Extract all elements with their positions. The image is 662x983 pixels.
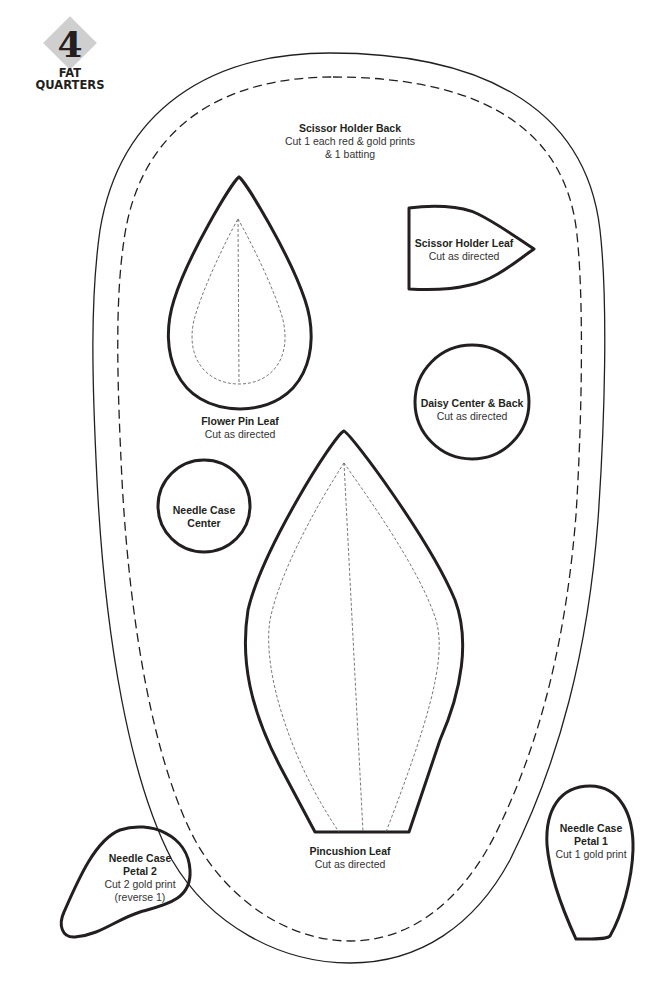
badge-line-2: QUARTERS: [22, 79, 118, 91]
badge-number: 4: [22, 24, 118, 64]
needle-case-petal-1-instruction: Cut 1 gold print: [538, 848, 644, 861]
scissor-holder-back-instruction-2: & 1 batting: [240, 148, 460, 161]
needle-case-petal-2-label: Needle Case Petal 2 Cut 2 gold print (re…: [90, 852, 190, 904]
flower-pin-leaf-outline: [168, 177, 311, 409]
scissor-holder-leaf-instruction: Cut as directed: [404, 250, 524, 263]
scissor-holder-leaf-label: Scissor Holder Leaf Cut as directed: [404, 237, 524, 263]
needle-case-petal-1-label: Needle Case Petal 1 Cut 1 gold print: [538, 822, 644, 861]
fat-quarters-badge: 4 FAT QUARTERS: [22, 22, 118, 102]
daisy-center-back-label: Daisy Center & Back Cut as directed: [408, 397, 536, 423]
daisy-center-back-instruction: Cut as directed: [408, 410, 536, 423]
scissor-holder-back-title: Scissor Holder Back: [240, 122, 460, 135]
needle-case-petal-1-title-1: Needle Case: [538, 822, 644, 835]
scissor-holder-back-instruction-1: Cut 1 each red & gold prints: [240, 135, 460, 148]
flower-pin-leaf-seam: [192, 219, 285, 384]
needle-case-petal-2-title-2: Petal 2: [90, 865, 190, 878]
needle-case-petal-2-title-1: Needle Case: [90, 852, 190, 865]
flower-pin-leaf-title: Flower Pin Leaf: [170, 415, 310, 428]
flower-pin-leaf-instruction: Cut as directed: [170, 428, 310, 441]
needle-case-petal-2-instruction-2: (reverse 1): [90, 891, 190, 904]
scissor-holder-back-label: Scissor Holder Back Cut 1 each red & gol…: [240, 122, 460, 161]
pincushion-leaf-label: Pincushion Leaf Cut as directed: [290, 845, 410, 871]
pincushion-leaf-instruction: Cut as directed: [290, 858, 410, 871]
needle-case-petal-1-outline: [547, 786, 633, 939]
pincushion-leaf-outline: [245, 431, 462, 832]
needle-case-petal-1-title-2: Petal 1: [538, 835, 644, 848]
scissor-holder-leaf-title: Scissor Holder Leaf: [404, 237, 524, 250]
needle-case-center-title-1: Needle Case: [154, 504, 254, 517]
pincushion-leaf-title: Pincushion Leaf: [290, 845, 410, 858]
pincushion-leaf-seam: [269, 463, 440, 832]
daisy-center-back-title: Daisy Center & Back: [408, 397, 536, 410]
needle-case-center-title-2: Center: [154, 517, 254, 530]
needle-case-petal-2-instruction-1: Cut 2 gold print: [90, 878, 190, 891]
needle-case-center-label: Needle Case Center: [154, 504, 254, 530]
flower-pin-leaf-label: Flower Pin Leaf Cut as directed: [170, 415, 310, 441]
